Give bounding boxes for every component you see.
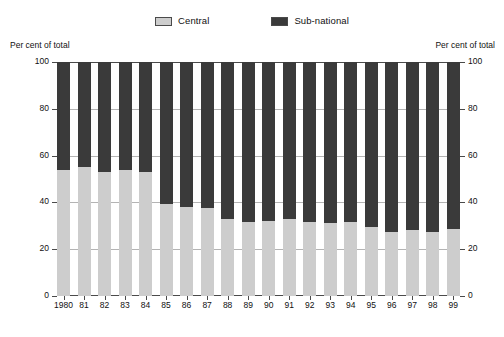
bar-segment-central (201, 208, 214, 296)
y-tick-mark (460, 202, 465, 203)
y-tick-mark (460, 109, 465, 110)
x-tick-label: 89 (242, 300, 255, 314)
plot-area: 100806040200 100806040200 (57, 62, 460, 296)
y-tick-label: 60 (40, 151, 49, 160)
y-tick-label: 20 (40, 244, 49, 253)
legend-label-sub-national: Sub-national (294, 16, 349, 26)
bar-segment-sub-national (324, 62, 337, 223)
y-tick-mark (460, 249, 465, 250)
chart-figure: Central Sub-national Per cent of total P… (0, 0, 504, 337)
x-tick-label: 95 (365, 300, 378, 314)
bar-97 (406, 62, 419, 296)
bar-83 (119, 62, 132, 296)
bar-segment-sub-national (262, 62, 275, 221)
x-tick-label: 99 (447, 300, 460, 314)
bar-segment-central (139, 172, 152, 296)
bar-segment-sub-national (447, 62, 460, 229)
x-tick-label: 84 (139, 300, 152, 314)
x-tick-label: 81 (78, 300, 91, 314)
bar-segment-central (426, 232, 439, 296)
bar-89 (242, 62, 255, 296)
x-tick-label: 90 (262, 300, 275, 314)
bar-81 (78, 62, 91, 296)
x-tick-label: 85 (160, 300, 173, 314)
x-tick-label: 96 (385, 300, 398, 314)
bar-92 (303, 62, 316, 296)
y-tick-mark (460, 156, 465, 157)
bar-group (57, 62, 460, 296)
bar-segment-sub-national (201, 62, 214, 208)
bar-segment-central (180, 207, 193, 296)
bar-91 (283, 62, 296, 296)
bar-segment-sub-national (426, 62, 439, 232)
y-axis-caption-right: Per cent of total (435, 40, 495, 50)
x-tick-label: 82 (98, 300, 111, 314)
bar-93 (324, 62, 337, 296)
bar-segment-central (262, 221, 275, 296)
y-tick-label: 80 (40, 104, 49, 113)
bar-82 (98, 62, 111, 296)
bar-1980 (57, 62, 70, 296)
x-tick-label: 92 (303, 300, 316, 314)
y-tick-label: 40 (40, 197, 49, 206)
bar-96 (385, 62, 398, 296)
y-tick-mark (52, 296, 57, 297)
bar-84 (139, 62, 152, 296)
bar-segment-sub-national (303, 62, 316, 222)
bar-segment-central (221, 219, 234, 296)
bar-segment-sub-national (57, 62, 70, 170)
bar-segment-central (365, 227, 378, 296)
y-tick-mark (460, 62, 465, 63)
bar-segment-central (406, 230, 419, 296)
y-axis-caption-left: Per cent of total (10, 40, 70, 50)
bar-segment-sub-national (385, 62, 398, 232)
bar-85 (160, 62, 173, 296)
bar-94 (344, 62, 357, 296)
bar-segment-central (119, 170, 132, 296)
y-tick-label: 40 (468, 197, 477, 206)
y-tick-label: 100 (35, 57, 49, 66)
x-tick-label: 93 (324, 300, 337, 314)
bar-86 (180, 62, 193, 296)
y-tick-label: 60 (468, 151, 477, 160)
bar-segment-central (78, 167, 91, 296)
x-tick-label: 94 (344, 300, 357, 314)
bar-99 (447, 62, 460, 296)
x-tick-label: 98 (426, 300, 439, 314)
legend-item-central: Central (155, 16, 209, 26)
x-tick-label: 83 (119, 300, 132, 314)
x-tick-label: 97 (406, 300, 419, 314)
bar-95 (365, 62, 378, 296)
legend-label-central: Central (178, 16, 209, 26)
bar-segment-sub-national (365, 62, 378, 227)
bar-segment-central (447, 229, 460, 296)
chart-legend: Central Sub-national (0, 16, 504, 26)
legend-swatch-sub-national (271, 17, 288, 26)
bar-90 (262, 62, 275, 296)
bar-segment-central (344, 222, 357, 296)
bar-segment-central (283, 219, 296, 296)
x-tick-label: 87 (201, 300, 214, 314)
x-tick-label: 1980 (57, 300, 70, 314)
bar-segment-central (324, 223, 337, 296)
bar-segment-sub-national (119, 62, 132, 170)
bar-98 (426, 62, 439, 296)
bar-segment-sub-national (283, 62, 296, 219)
y-tick-label: 20 (468, 244, 477, 253)
bar-segment-central (160, 204, 173, 296)
bar-segment-sub-national (160, 62, 173, 204)
y-tick-label: 0 (468, 291, 473, 300)
bar-segment-sub-national (406, 62, 419, 230)
bar-segment-central (57, 170, 70, 296)
y-tick-label: 100 (468, 57, 482, 66)
bar-segment-central (303, 222, 316, 296)
x-axis-labels: 1980818283848586878889909192939495969798… (57, 300, 460, 314)
bar-segment-sub-national (180, 62, 193, 207)
bar-segment-sub-national (221, 62, 234, 219)
y-tick-label: 0 (44, 291, 49, 300)
bar-segment-sub-national (242, 62, 255, 222)
bar-88 (221, 62, 234, 296)
legend-swatch-central (155, 17, 172, 26)
legend-item-sub-national: Sub-national (271, 16, 349, 26)
bar-87 (201, 62, 214, 296)
